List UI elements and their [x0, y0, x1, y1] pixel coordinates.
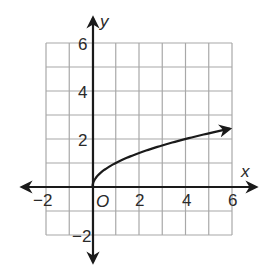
coordinate-plane: y x O −2 2 4 6 6 4 2 −2 [0, 0, 270, 275]
x-tick-label-4: 4 [182, 191, 191, 210]
y-tick-label-6: 6 [78, 35, 87, 54]
x-tick-label-6: 6 [228, 191, 237, 210]
x-axis-label: x [240, 162, 250, 181]
x-tick-label-2: 2 [135, 191, 144, 210]
y-tick-label-4: 4 [78, 83, 87, 102]
y-tick-label-neg2: −2 [72, 227, 91, 246]
x-tick-label-neg2: −2 [33, 191, 52, 210]
origin-label: O [96, 192, 109, 211]
y-tick-label-2: 2 [78, 131, 87, 150]
y-axis-label: y [99, 12, 110, 31]
